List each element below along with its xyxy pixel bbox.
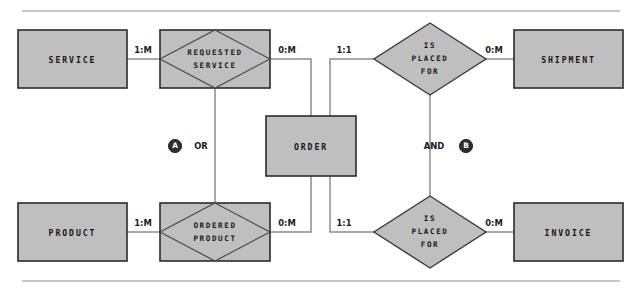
relationship-is-placed-for-invoice-label-line2: PLACED [411,227,448,236]
relationship-is-placed-for-invoice-label-line1: IS [424,214,436,223]
cardinality-order-is-placed-for-invoice: 1:1 [336,218,351,228]
cardinality-ordered-product-order: 0:M [278,218,296,228]
entity-invoice[interactable]: INVOICE [514,203,623,261]
entity-service-label: SERVICE [49,55,97,65]
relationship-ordered-product-label-line1: ORDERED [193,221,236,230]
entity-service[interactable]: SERVICE [18,30,127,88]
relationship-ordered-product-label-line2: PRODUCT [193,234,236,243]
relationship-is-placed-for-invoice-label-line3: FOR [421,240,440,249]
cardinality-service-requested-service: 1:M [134,45,152,55]
relationship-is-placed-for-shipment-label-line3: FOR [421,67,440,76]
cardinality-is-placed-for-shipment: 0:M [485,45,503,55]
entity-order-label: ORDER [294,142,328,152]
badge-b-letter: B [463,141,469,150]
cardinality-product-ordered-product: 1:M [134,218,152,228]
entity-invoice-label: INVOICE [545,228,593,238]
entity-shipment[interactable]: SHIPMENT [514,30,623,88]
relationship-requested-service-label-line2: SERVICE [193,61,236,70]
relationship-is-placed-for-shipment-label-line1: IS [424,41,436,50]
badge-a-letter: A [172,141,178,150]
entity-order[interactable]: ORDER [266,116,356,176]
relationship-ordered-product[interactable]: ORDERED PRODUCT [160,203,270,261]
cardinality-is-placed-for-invoice: 0:M [485,218,503,228]
cardinality-requested-service-order: 0:M [278,45,296,55]
operator-and-label: AND [424,141,444,151]
operator-or-label: OR [194,141,208,151]
relationship-requested-service[interactable]: REQUESTED SERVICE [160,30,270,88]
entity-product-label: PRODUCT [49,228,97,238]
relationship-requested-service-label-line1: REQUESTED [187,48,243,57]
entity-shipment-label: SHIPMENT [541,55,596,65]
entity-product[interactable]: PRODUCT [18,203,127,261]
er-diagram-canvas: SERVICE SHIPMENT PRODUCT INVOICE ORDER R… [0,0,641,291]
relationship-is-placed-for-shipment-label-line2: PLACED [411,54,448,63]
cardinality-order-is-placed-for-shipment: 1:1 [336,45,351,55]
